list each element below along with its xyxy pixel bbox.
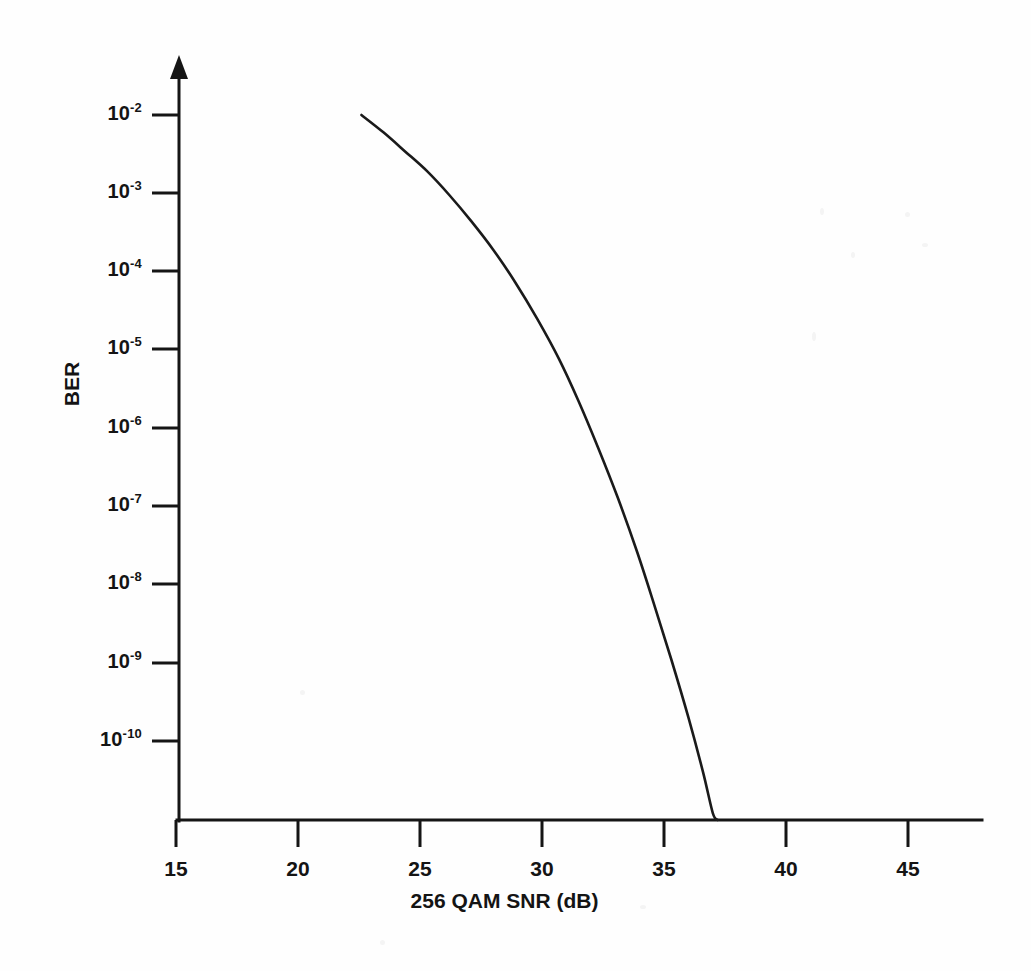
ber-curve-line: [361, 115, 717, 820]
y-axis-ticks: [152, 115, 180, 741]
xtick-label-3: 30: [512, 857, 572, 881]
xtick-label-6: 45: [878, 857, 938, 881]
chart-figure: 10-2 10-3 10-4 10-5 10-6 10-7 10-8 10-9 …: [0, 0, 1031, 971]
xtick-label-2: 25: [390, 857, 450, 881]
ytick-label-6: 10-8: [44, 571, 142, 594]
xtick-label-0: 15: [146, 857, 206, 881]
xtick-label-4: 35: [634, 857, 694, 881]
y-axis-arrow-icon: [170, 55, 188, 79]
ytick-label-5: 10-7: [44, 493, 142, 516]
ytick-label-4: 10-6: [44, 415, 142, 438]
ytick-label-8: 10-10: [40, 728, 142, 751]
xtick-label-5: 40: [756, 857, 816, 881]
chart-canvas: [0, 0, 1031, 971]
ytick-label-0: 10-2: [44, 102, 142, 125]
ytick-label-7: 10-9: [44, 650, 142, 673]
ytick-label-2: 10-4: [44, 258, 142, 281]
ytick-label-3: 10-5: [44, 336, 142, 359]
ytick-label-1: 10-3: [44, 180, 142, 203]
xtick-label-1: 20: [268, 857, 328, 881]
y-axis-title: BER: [60, 334, 84, 434]
x-axis-ticks: [176, 820, 908, 847]
x-axis-title: 256 QAM SNR (dB): [0, 889, 1031, 913]
x-axis-title-text: 256 QAM SNR (dB): [411, 889, 599, 913]
